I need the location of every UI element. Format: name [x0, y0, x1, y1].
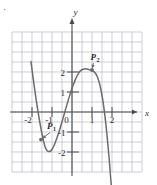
- x-tick-label-neg2: -2: [24, 115, 32, 125]
- x-axis-label: x: [144, 108, 149, 118]
- cubic-graph-svg: P 1 P 2 -2 -1 0 1 2 2 1 -1 -2 y x ·: [0, 0, 157, 185]
- x-tick-label-zero: 0: [64, 115, 69, 125]
- y-tick-label-1: 1: [61, 88, 66, 98]
- p2-marker: [90, 68, 94, 72]
- corner-mark: ·: [3, 4, 6, 14]
- p2-subscript: 2: [96, 57, 99, 63]
- x-tick-label-1: 1: [90, 115, 95, 125]
- y-tick-label-neg1: -1: [58, 128, 66, 138]
- graph-figure: P 1 P 2 -2 -1 0 1 2 2 1 -1 -2 y x ·: [0, 0, 157, 185]
- p1-subscript: 1: [53, 126, 56, 132]
- y-tick-label-2: 2: [61, 68, 66, 78]
- y-tick-label-neg2: -2: [58, 148, 66, 158]
- x-tick-label-neg1: -1: [45, 115, 53, 125]
- y-axis-label: y: [73, 7, 78, 17]
- x-tick-label-2: 2: [110, 115, 115, 125]
